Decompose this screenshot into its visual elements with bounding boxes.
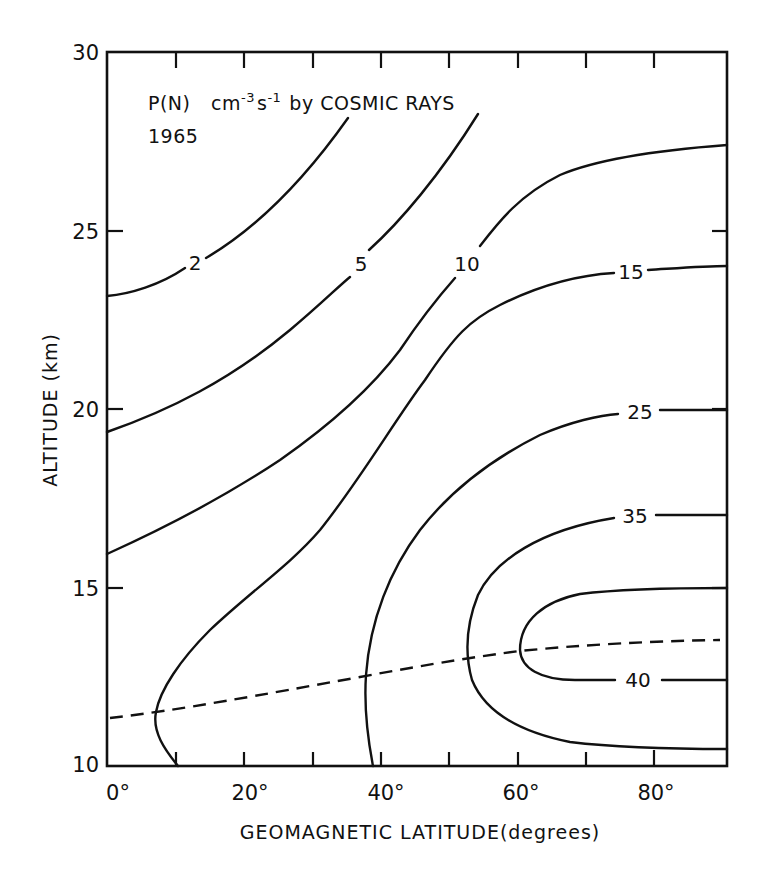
x-tick-label-40: 40°: [367, 781, 404, 805]
y-tick-label-25: 25: [72, 220, 99, 244]
title-unit-cm: cm: [211, 92, 241, 114]
contour-40: [520, 588, 727, 680]
contour-10: [107, 145, 727, 554]
x-tick-label-20: 20°: [231, 781, 268, 805]
chart-subtitle: 1965: [148, 125, 198, 147]
x-axis-title: GEOMAGNETIC LATITUDE(degrees): [240, 821, 600, 843]
y-tick-label-10: 10: [72, 753, 99, 777]
y-tick-label-20: 20: [72, 398, 99, 422]
y-axis-title: ALTITUDE (km): [39, 333, 61, 487]
title-unit-s: s: [257, 92, 267, 114]
contour-2: [107, 118, 348, 296]
y-tick-label-15: 15: [72, 577, 99, 601]
contour-chart: 30 25 20 15 10 0° 20° 40° 60° 80° GEOMAG…: [0, 0, 764, 883]
x-axis-ticks: [176, 750, 654, 766]
x-tick-label-80: 80°: [637, 781, 674, 805]
title-suffix: by COSMIC RAYS: [289, 92, 455, 114]
contour-35: [468, 515, 727, 749]
title-unit-s-exp: -1: [267, 90, 281, 105]
y-tick-label-30: 30: [72, 41, 99, 65]
y-axis-ticks: [107, 231, 123, 588]
x-tick-label-60: 60°: [502, 781, 539, 805]
title-unit-cm-exp: -3: [241, 90, 255, 105]
contour-label-35: 35: [622, 504, 647, 528]
chart-title: P(N) cm-3s-1by COSMIC RAYS: [148, 90, 455, 114]
x-axis-top-ticks: [176, 52, 654, 68]
x-tick-label-0: 0°: [106, 781, 130, 805]
contour-label-5: 5: [355, 252, 368, 276]
contour-label-25: 25: [627, 400, 652, 424]
contour-label-2: 2: [189, 251, 202, 275]
contour-label-15: 15: [618, 260, 643, 284]
contour-label-40: 40: [625, 668, 650, 692]
contour-label-10: 10: [454, 252, 479, 276]
title-prefix: P(N): [148, 92, 191, 114]
